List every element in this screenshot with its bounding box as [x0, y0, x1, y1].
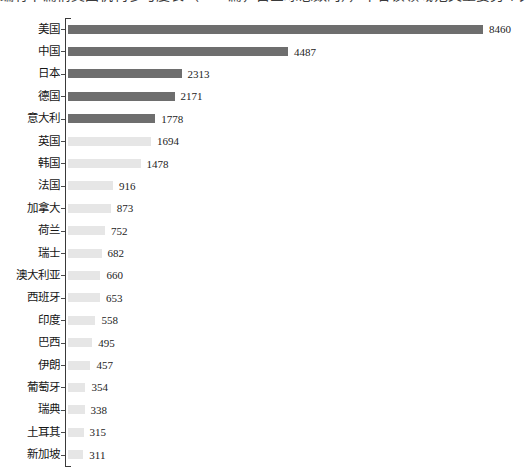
- bar-zone: 354: [68, 376, 528, 398]
- bar-value-label: 4487: [294, 46, 316, 58]
- bar-value-label: 495: [98, 337, 115, 349]
- bar: [68, 450, 83, 459]
- bar-row: 巴西495: [0, 331, 528, 353]
- bar-row: 意大利1778: [0, 108, 528, 130]
- bar-value-label: 1694: [157, 135, 179, 147]
- bar-category-label: 中国: [0, 45, 60, 58]
- axis-cap-top: [66, 18, 71, 19]
- bar-category-label: 印度: [0, 314, 60, 327]
- bar-category-label: 瑞典: [0, 403, 60, 416]
- bar: [68, 137, 151, 146]
- bar: [68, 47, 288, 56]
- bar-value-label: 2313: [188, 68, 210, 80]
- bar-row: 瑞典338: [0, 399, 528, 421]
- bar: [68, 69, 182, 78]
- bar-category-label: 荷兰: [0, 224, 60, 237]
- bar-value-label: 682: [108, 247, 125, 259]
- axis-tick: [61, 387, 65, 388]
- bar: [68, 271, 100, 280]
- axis-cap-bottom: [66, 466, 71, 467]
- bar-chart: 美国8460中国4487日本2313德国2171意大利1778英国1694韩国1…: [0, 18, 528, 473]
- bar-category-label: 法国: [0, 179, 60, 192]
- bar-row: 瑞士682: [0, 242, 528, 264]
- bar-category-label: 土耳其: [0, 426, 60, 439]
- bar-category-label: 英国: [0, 135, 60, 148]
- bar-zone: 558: [68, 309, 528, 331]
- bar-row: 法国916: [0, 175, 528, 197]
- bar-zone: 1694: [68, 130, 528, 152]
- bar-zone: 2313: [68, 63, 528, 85]
- bar-row: 新加坡311: [0, 443, 528, 465]
- bar-category-label: 德国: [0, 90, 60, 103]
- bar-category-label: 西班牙: [0, 291, 60, 304]
- bar-value-label: 1478: [147, 158, 169, 170]
- axis-tick: [61, 74, 65, 75]
- bar-row: 伊朗457: [0, 354, 528, 376]
- bar-category-label: 意大利: [0, 112, 60, 125]
- axis-tick: [61, 51, 65, 52]
- bar-row: 荷兰752: [0, 220, 528, 242]
- axis-tick: [61, 253, 65, 254]
- bar-zone: 311: [68, 443, 528, 465]
- bar-zone: 873: [68, 197, 528, 219]
- bar: [68, 159, 141, 168]
- bar-category-label: 加拿大: [0, 202, 60, 215]
- bar-zone: 752: [68, 220, 528, 242]
- bar: [68, 361, 90, 370]
- bar-row: 德国2171: [0, 85, 528, 107]
- bar: [68, 226, 105, 235]
- bar-value-label: 916: [119, 180, 136, 192]
- bar-category-label: 日本: [0, 67, 60, 80]
- axis-tick: [61, 29, 65, 30]
- bar-row: 印度558: [0, 309, 528, 331]
- bar-category-label: 巴西: [0, 336, 60, 349]
- bar-value-label: 660: [106, 269, 123, 281]
- axis-tick: [61, 365, 65, 366]
- bar-zone: 660: [68, 264, 528, 286]
- bar-value-label: 752: [111, 225, 128, 237]
- bar-category-label: 韩国: [0, 157, 60, 170]
- bar-zone: 1778: [68, 108, 528, 130]
- axis-tick: [61, 343, 65, 344]
- bar-category-label: 伊朗: [0, 359, 60, 372]
- bar-zone: 8460: [68, 18, 528, 40]
- bar-value-label: 457: [96, 359, 113, 371]
- bar-zone: 682: [68, 242, 528, 264]
- bar-category-label: 澳大利亚: [0, 269, 60, 282]
- bar: [68, 249, 102, 258]
- bar-row: 葡萄牙354: [0, 376, 528, 398]
- bar-value-label: 873: [117, 202, 134, 214]
- bar: [68, 114, 155, 123]
- bar-row: 韩国1478: [0, 152, 528, 174]
- bar-row: 加拿大873: [0, 197, 528, 219]
- axis-tick: [61, 275, 65, 276]
- caption-text: 编有下篇情美国机构参与度长（8460篇，占全球总数的），下各该领域范文重要另个关…: [0, 0, 528, 4]
- axis-tick: [61, 410, 65, 411]
- bar: [68, 25, 483, 34]
- caption-strip: 编有下篇情美国机构参与度长（8460篇，占全球总数的），下各该领域范文重要另个关…: [0, 0, 528, 14]
- bar-value-label: 558: [101, 314, 118, 326]
- bar-value-label: 311: [89, 449, 105, 461]
- bar-value-label: 2171: [181, 90, 203, 102]
- bar-zone: 2171: [68, 85, 528, 107]
- axis-tick: [61, 432, 65, 433]
- bar-row: 日本2313: [0, 63, 528, 85]
- bar-category-label: 葡萄牙: [0, 381, 60, 394]
- bar-category-label: 新加坡: [0, 448, 60, 461]
- bar-row: 美国8460: [0, 18, 528, 40]
- bar-value-label: 1778: [161, 113, 183, 125]
- bar-row: 土耳其315: [0, 421, 528, 443]
- bar-row: 澳大利亚660: [0, 264, 528, 286]
- bar-zone: 653: [68, 287, 528, 309]
- bar: [68, 92, 175, 101]
- axis-tick: [61, 208, 65, 209]
- bar: [68, 383, 85, 392]
- bar-row: 西班牙653: [0, 287, 528, 309]
- bar-row: 中国4487: [0, 40, 528, 62]
- bar: [68, 181, 113, 190]
- bar-zone: 457: [68, 354, 528, 376]
- bar-zone: 916: [68, 175, 528, 197]
- bar: [68, 204, 111, 213]
- bar-zone: 495: [68, 331, 528, 353]
- bar-value-label: 8460: [489, 23, 511, 35]
